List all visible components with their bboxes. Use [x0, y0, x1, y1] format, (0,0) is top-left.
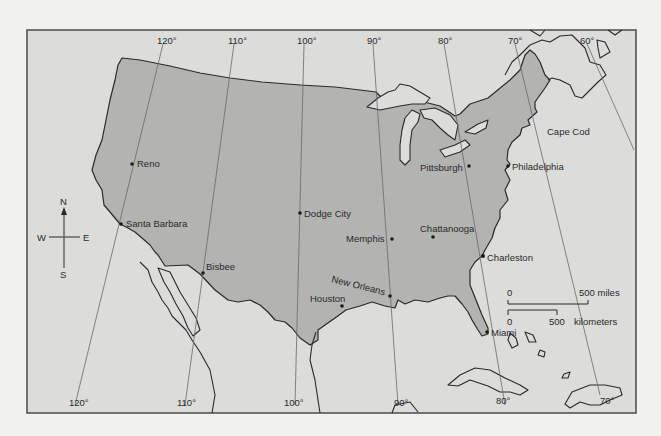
- city-cape-cod[interactable]: Cape Cod: [547, 126, 590, 137]
- scale-km-end: 500: [549, 316, 565, 327]
- compass-south: S: [60, 269, 66, 280]
- meridian-label: 60°: [580, 35, 595, 46]
- meridian-label: 80°: [438, 35, 453, 46]
- scale-km-unit: kilometers: [574, 316, 618, 327]
- scale-miles-end: 500 miles: [579, 287, 620, 298]
- meridian-label: 70°: [600, 395, 615, 406]
- meridian-label: 110°: [177, 397, 196, 408]
- meridian-label: 120°: [157, 35, 177, 46]
- city-label: Miami: [491, 327, 516, 338]
- city-label: Memphis: [346, 233, 385, 244]
- meridian-label: 90°: [394, 397, 409, 408]
- city-label: Chattanooga: [420, 223, 475, 234]
- city-label: Philadelphia: [512, 161, 564, 172]
- city-philadelphia[interactable]: Philadelphia: [506, 161, 564, 172]
- city-santa-barbara[interactable]: Santa Barbara: [119, 218, 188, 229]
- city-label: Dodge City: [304, 208, 351, 219]
- city-dodge-city[interactable]: Dodge City: [298, 208, 351, 219]
- city-label: Charleston: [487, 252, 533, 263]
- compass-north: N: [60, 196, 67, 207]
- meridian-label: 100°: [297, 35, 317, 46]
- city-label: Bisbee: [206, 261, 235, 272]
- city-label: Houston: [310, 293, 345, 304]
- meridian-label: 110°: [228, 35, 247, 46]
- meridian-label: 100°: [284, 397, 304, 408]
- meridian-label: 90°: [367, 35, 382, 46]
- meridian-label: 80°: [496, 395, 511, 406]
- compass-west: W: [37, 232, 46, 243]
- scale-km-start: 0: [507, 316, 512, 327]
- city-charleston[interactable]: Charleston: [481, 252, 533, 263]
- meridian-label: 70°: [508, 35, 523, 46]
- scale-miles-start: 0: [507, 287, 512, 298]
- city-label: Cape Cod: [547, 126, 590, 137]
- compass-east: E: [83, 232, 89, 243]
- us-map: 120° 110° 100° 90° 80° 70° 60° 120° 110°…: [0, 0, 661, 436]
- city-label: Reno: [137, 158, 160, 169]
- city-label: Pittsburgh: [420, 162, 463, 173]
- city-label: Santa Barbara: [126, 218, 188, 229]
- meridian-label: 120°: [69, 397, 89, 408]
